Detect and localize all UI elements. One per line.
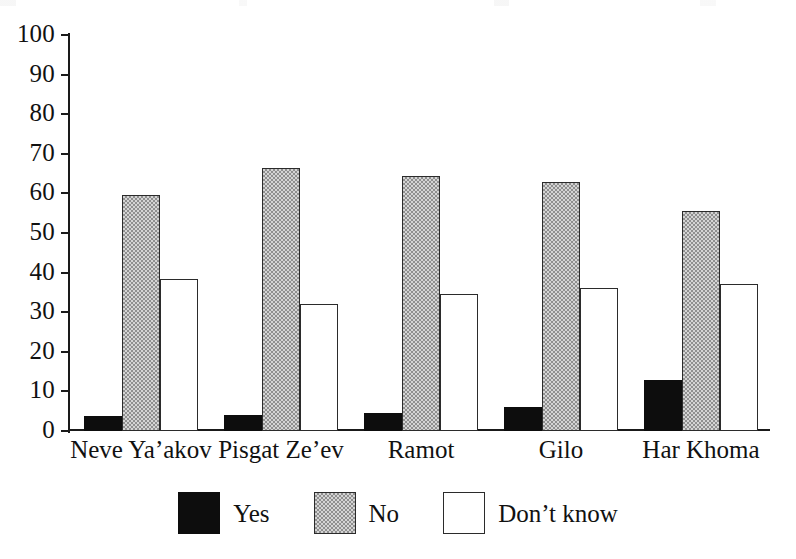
y-axis-tick-label: 10	[30, 377, 55, 402]
y-axis-tick: 100	[61, 34, 70, 36]
x-axis-category-label: Pisgat Ze’ev	[218, 437, 344, 462]
y-axis-tick-label: 40	[30, 259, 55, 284]
y-axis-tick-label: 0	[42, 417, 55, 442]
y-axis-tick: 50	[61, 232, 70, 234]
bar-ramot-yes	[364, 413, 402, 431]
legend-swatch-no	[314, 492, 356, 534]
y-axis-tick-label: 100	[17, 21, 55, 46]
y-axis-tick-label: 20	[30, 338, 55, 363]
y-axis-tick: 20	[61, 351, 70, 353]
y-axis-tick-label: 70	[30, 140, 55, 165]
y-axis-tick: 40	[61, 272, 70, 274]
y-axis-tick-label: 30	[30, 298, 55, 323]
x-axis-category-label: Gilo	[539, 437, 583, 462]
legend-swatch-yes	[178, 492, 220, 534]
y-axis-tick-label: 60	[30, 179, 55, 204]
y-axis-tick: 70	[61, 153, 70, 155]
y-axis-tick: 80	[61, 113, 70, 115]
bar-gilo-yes	[504, 407, 542, 431]
y-axis-tick: 60	[61, 192, 70, 194]
legend-label: Don’t know	[498, 501, 618, 526]
bar-pisgat-ze-ev-no	[262, 168, 300, 431]
x-axis-category-label: Ramot	[388, 437, 455, 462]
bar-har-khoma-yes	[644, 380, 682, 431]
bar-ramot-don-t-know	[440, 294, 478, 431]
chart-legend: YesNoDon’t know	[0, 492, 796, 534]
legend-item: Don’t know	[443, 492, 618, 534]
bar-gilo-no	[542, 182, 580, 431]
bar-pisgat-ze-ev-yes	[224, 415, 262, 431]
cropped-caption-remnant	[0, 0, 796, 6]
legend-item: Yes	[178, 492, 269, 534]
y-axis-tick-label: 50	[30, 219, 55, 244]
bar-pisgat-ze-ev-don-t-know	[300, 304, 338, 431]
plot-area: 0102030405060708090100	[70, 35, 770, 431]
y-axis-tick: 90	[61, 74, 70, 76]
bar-har-khoma-no	[682, 211, 720, 431]
bar-chart: 0102030405060708090100 YesNoDon’t know N…	[0, 0, 796, 559]
y-axis-tick: 0	[61, 430, 70, 432]
bar-ramot-no	[402, 176, 440, 431]
x-axis-category-label: Har Khoma	[642, 437, 759, 462]
bar-neve-ya-akov-yes	[84, 416, 122, 431]
y-axis-tick: 30	[61, 311, 70, 313]
legend-item: No	[314, 492, 400, 534]
bar-har-khoma-don-t-know	[720, 284, 758, 431]
y-axis-tick: 10	[61, 390, 70, 392]
bar-neve-ya-akov-no	[122, 195, 160, 431]
legend-label: No	[369, 501, 400, 526]
legend-label: Yes	[233, 501, 269, 526]
y-axis-tick-label: 90	[30, 61, 55, 86]
bar-neve-ya-akov-don-t-know	[160, 279, 198, 431]
x-axis-category-label: Neve Ya’akov	[70, 437, 212, 462]
bar-gilo-don-t-know	[580, 288, 618, 431]
y-axis-tick-label: 80	[30, 100, 55, 125]
legend-swatch-don-t-know	[443, 492, 485, 534]
